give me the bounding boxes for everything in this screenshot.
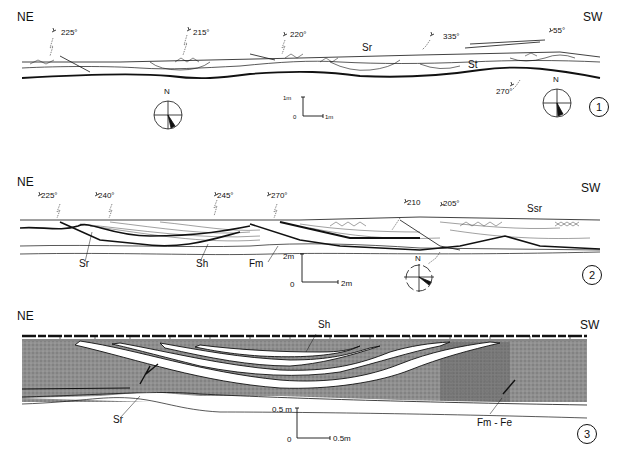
- panel-3-facies-sh: Sh: [318, 320, 330, 330]
- panel-1-scale-origin: 0: [293, 113, 296, 121]
- panel-2-number: 2: [582, 265, 602, 285]
- panel-1-compass-left: [154, 101, 182, 129]
- panel-2-azimuth-5: 210: [407, 199, 420, 207]
- panel-1-number: 1: [589, 97, 609, 117]
- panel-2-azimuth-1: 225°: [41, 192, 58, 200]
- panel-1-scale-bar: [301, 97, 323, 118]
- panel-1-azimuth-1: 225°: [61, 29, 78, 37]
- panel-1-compass-n-right: N: [553, 76, 559, 84]
- panel-1-facies-st: St: [468, 60, 477, 70]
- panel-2-facies-sh: Sh: [196, 259, 208, 269]
- panel-2-scale-origin: 0: [290, 281, 294, 289]
- panel-3-ne-label: NE: [17, 310, 34, 322]
- panel-2-azimuth-4: 270°: [271, 192, 288, 200]
- panel-1-scale-vertical: 1m: [283, 94, 291, 102]
- panel-3-facies-fm-fe: Fm - Fe: [477, 418, 512, 428]
- panel-2-facies-sr: Sr: [79, 259, 89, 269]
- panel-2-azimuth-2: 240°: [98, 192, 115, 200]
- figure-linework: [0, 0, 621, 460]
- panel-3-section: [22, 334, 587, 418]
- panel-2-facies-ssr: Ssr: [527, 204, 542, 214]
- panel-3-number: 3: [577, 424, 597, 444]
- panel-3-scale-horizontal: 0.5m: [333, 435, 351, 443]
- panel-1-ne-label: NE: [17, 11, 34, 23]
- panel-3-facies-sr: Sr: [113, 415, 123, 425]
- panel-2-compass-n: N: [415, 255, 421, 263]
- panel-1-sw-label: SW: [583, 11, 602, 23]
- panel-3-scale-vertical: 0.5 m: [272, 406, 292, 414]
- panel-1-azimuth-6: 270°: [496, 88, 513, 96]
- panel-2-sw-label: SW: [581, 182, 600, 194]
- panel-1-facies-sr: Sr: [362, 43, 372, 53]
- panel-3-scale-origin: 0: [287, 436, 291, 444]
- panel-2-scale-bar: [300, 254, 338, 284]
- panel-2-compass: [404, 264, 434, 292]
- panel-1-azimuth-5: 55°: [553, 27, 565, 35]
- panel-1-scale-horizontal: 1m: [325, 113, 333, 121]
- panel-1-section: [22, 27, 600, 90]
- panel-3-sw-label: SW: [580, 319, 599, 331]
- panel-2-azimuth-3: 245°: [217, 192, 234, 200]
- panel-1-azimuth-3: 220°: [290, 31, 307, 39]
- panel-2-azimuth-6: 205°: [443, 200, 460, 208]
- panel-2-facies-fm: Fm: [249, 259, 263, 269]
- panel-2-scale-horizontal: 2m: [341, 280, 352, 288]
- panel-1-compass-right: [543, 89, 571, 117]
- panel-2-ne-label: NE: [17, 176, 34, 188]
- panel-1-azimuth-4: 335°: [443, 33, 460, 41]
- panel-1-azimuth-2: 215°: [193, 29, 210, 37]
- panel-1-compass-n-left: N: [164, 88, 170, 96]
- panel-2-scale-vertical: 2m: [283, 253, 294, 261]
- panel-2-section: [20, 192, 600, 264]
